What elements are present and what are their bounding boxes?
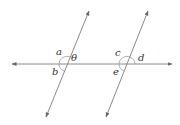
label-b: b xyxy=(52,66,58,77)
diagram-canvas: a θ b c d e xyxy=(0,0,180,125)
label-theta: θ xyxy=(71,52,77,63)
label-d: d xyxy=(138,52,144,63)
label-c: c xyxy=(115,47,121,58)
angle-arc-e xyxy=(119,64,124,71)
angle-arc-b xyxy=(59,64,64,71)
angle-arc-d xyxy=(130,57,135,64)
angle-diagram: a θ b c d e xyxy=(0,0,180,125)
label-e: e xyxy=(113,66,119,77)
label-a: a xyxy=(56,46,62,57)
